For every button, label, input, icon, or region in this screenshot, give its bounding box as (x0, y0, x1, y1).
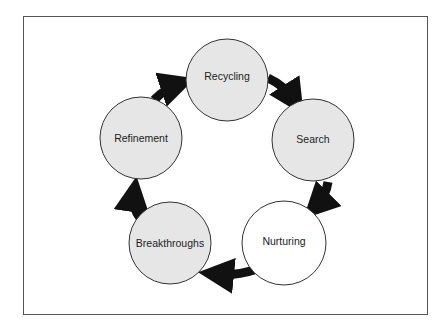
cycle-diagram (0, 0, 448, 327)
node-label-nurturing: Nurturing (239, 235, 329, 247)
arrow-search-to-nurturing (316, 182, 328, 206)
node-label-search: Search (268, 133, 358, 145)
arrow-refinement-to-recycling (154, 84, 178, 100)
node-label-breakthroughs: Breakthroughs (125, 237, 215, 249)
node-label-refinement: Refinement (96, 132, 186, 144)
node-label-recycling: Recycling (182, 70, 272, 82)
arrow-breakthroughs-to-refinement (134, 194, 140, 218)
arrow-nurturing-to-breakthroughs (216, 270, 254, 275)
